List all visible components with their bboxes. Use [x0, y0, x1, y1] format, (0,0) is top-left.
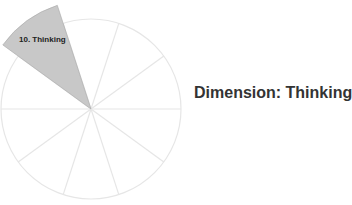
- dimension-title: Dimension: Thinking: [194, 84, 352, 102]
- dimension-wheel: 10. Thinking: [0, 0, 190, 205]
- segment-label: 10. Thinking: [19, 35, 66, 44]
